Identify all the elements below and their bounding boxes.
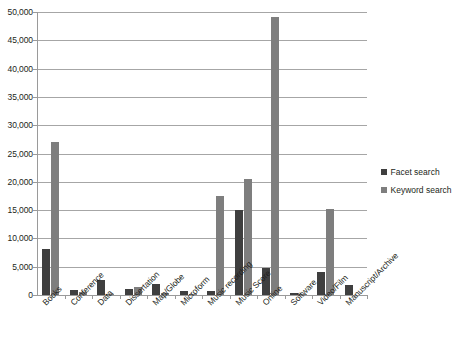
y-axis-tick-label: 25,000 (0, 150, 33, 159)
bar-group (312, 12, 340, 295)
bar-group (147, 12, 175, 295)
bar (42, 249, 50, 295)
bar (216, 196, 224, 295)
bar-group (285, 12, 313, 295)
y-axis-tick-label: 20,000 (0, 178, 33, 187)
bar-group (65, 12, 93, 295)
legend-item-facet-search: Facet search (381, 168, 451, 177)
chart-legend: Facet search Keyword search (381, 168, 451, 203)
x-axis-tick-mark (175, 295, 176, 299)
y-axis-tick-label: 5,000 (0, 263, 33, 272)
legend-label: Facet search (391, 168, 440, 177)
y-axis-tick-label: 40,000 (0, 65, 33, 74)
x-axis-tick-mark (65, 295, 66, 299)
bar (271, 17, 279, 295)
bar-group (92, 12, 120, 295)
bar-chart: 05,00010,00015,00020,00025,00030,00035,0… (0, 0, 452, 352)
bar-group (340, 12, 368, 295)
x-axis-tick-mark (147, 295, 148, 299)
x-axis-tick-mark (285, 295, 286, 299)
legend-label: Keyword search (391, 186, 452, 195)
legend-swatch-icon (381, 187, 387, 193)
x-axis-tick-mark (257, 295, 258, 299)
y-axis-tick-label: 15,000 (0, 206, 33, 215)
bar (244, 179, 252, 295)
x-axis-tick-mark (312, 295, 313, 299)
x-axis-tick-mark (230, 295, 231, 299)
y-axis-tick-label: 35,000 (0, 93, 33, 102)
x-axis-tick-mark (120, 295, 121, 299)
y-axis-tick-label: 30,000 (0, 121, 33, 130)
bar (51, 142, 59, 295)
y-axis-tick-label: 45,000 (0, 36, 33, 45)
y-axis-tick-mark (33, 295, 37, 296)
bar-group (120, 12, 148, 295)
x-axis-tick-mark (367, 295, 368, 299)
bar-group (37, 12, 65, 295)
bar-group (257, 12, 285, 295)
bar-group (175, 12, 203, 295)
legend-item-keyword-search: Keyword search (381, 186, 451, 195)
legend-swatch-icon (381, 169, 387, 175)
y-axis-tick-label: 10,000 (0, 234, 33, 243)
x-axis-tick-mark (92, 295, 93, 299)
bar-group (230, 12, 258, 295)
y-axis-tick-label: 0 (0, 291, 33, 300)
bar-group (202, 12, 230, 295)
bar-series-container (37, 12, 367, 295)
y-axis-tick-label: 50,000 (0, 8, 33, 17)
x-axis-tick-mark (340, 295, 341, 299)
x-axis-tick-mark (202, 295, 203, 299)
